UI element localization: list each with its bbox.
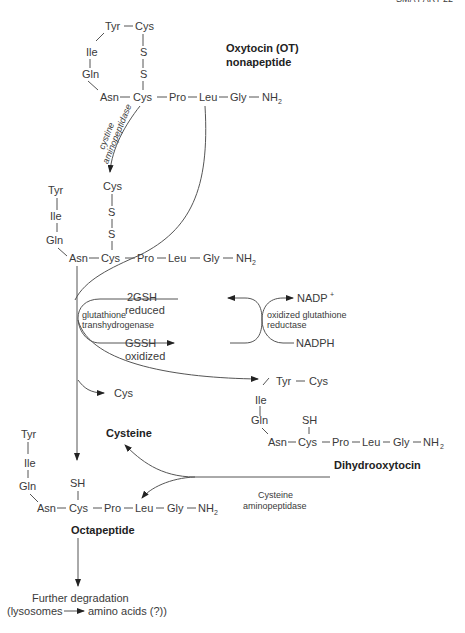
- residue-gln: Gln: [19, 480, 36, 492]
- degradation-lysosomes: (lysosomes: [7, 605, 63, 617]
- glutathione-cycle: 2GSH reduced GSSH oxidized glutathione t…: [78, 291, 347, 393]
- subscript-2: 2: [440, 443, 444, 450]
- residue-gln: Gln: [46, 234, 63, 246]
- sulfur-1: S: [108, 206, 115, 218]
- octapeptide-formation-arrow: [142, 477, 195, 498]
- dihydrooxytocin-title: Dihydrooxytocin: [334, 459, 421, 471]
- thiol-sh: SH: [70, 477, 85, 489]
- glutathione-reduced: 2GSH: [127, 291, 157, 303]
- enzyme-transhydrogenase-1: glutathione: [82, 310, 126, 320]
- nadph: NADPH: [296, 337, 335, 349]
- residue-pro: Pro: [169, 91, 186, 103]
- residue-asn: Asn: [69, 252, 88, 264]
- terminal-nh2: NH: [198, 502, 214, 514]
- oxytocin-title: Oxytocin (OT): [226, 42, 299, 54]
- residue-leu: Leu: [135, 502, 153, 514]
- leu-curve: [75, 106, 206, 300]
- subscript-2: 2: [278, 98, 282, 105]
- enzyme-cystine-aminopeptidase: cystine aminopeptidase: [92, 99, 133, 165]
- residue-pro: Pro: [332, 436, 349, 448]
- residue-leu: Leu: [199, 91, 217, 103]
- residue-asn: Asn: [100, 91, 119, 103]
- residue-leu: Leu: [362, 436, 380, 448]
- residue-gly: Gly: [393, 436, 410, 448]
- residue-tyr: Tyr: [21, 428, 37, 440]
- residue-gly: Gly: [230, 91, 247, 103]
- sulfur-1: S: [140, 46, 147, 58]
- sulfur-2: S: [108, 228, 115, 240]
- terminal-nh2: NH: [236, 252, 252, 264]
- cysteine-release-arrow: [125, 445, 330, 477]
- octapeptide-title: Octapeptide: [71, 524, 135, 536]
- residue-ile: Ile: [86, 46, 98, 58]
- residue-cys: Cys: [298, 436, 317, 448]
- residue-cys: Cys: [103, 180, 122, 192]
- residue-ile: Ile: [24, 457, 36, 469]
- residue-ile: Ile: [50, 210, 62, 222]
- residue-cys: Cys: [135, 20, 154, 32]
- residue-leu: Leu: [168, 252, 186, 264]
- terminal-nh2: NH: [423, 436, 439, 448]
- residue-gly: Gly: [167, 502, 184, 514]
- residue-cys: Cys: [133, 91, 152, 103]
- residue-cys: Cys: [101, 252, 120, 264]
- terminal-nh2: NH: [262, 91, 278, 103]
- residue-pro: Pro: [137, 252, 154, 264]
- thiol-sh: SH: [302, 414, 317, 426]
- residue-ile: Ile: [255, 394, 267, 406]
- intermediate-structure: Cys S S Tyr Ile Gln Asn Cys Pro Leu Gly …: [46, 180, 256, 266]
- nadp-superscript: +: [330, 291, 334, 298]
- subscript-2: 2: [252, 259, 256, 266]
- enzyme-reductase-1: oxidized glutathione: [267, 310, 347, 320]
- oxytocin-subtitle: nonapeptide: [226, 56, 291, 68]
- dihydrooxytocin-structure: Tyr Cys Ile Gln SH Asn Cys Pro Leu Gly N…: [251, 375, 444, 471]
- residue-gly: Gly: [203, 252, 220, 264]
- residue-cys: Cys: [309, 375, 328, 387]
- oxytocin-structure: Tyr Cys Ile S Gln S Asn Cys Pro Leu Gly …: [82, 20, 299, 105]
- glutathione-reduced-label: reduced: [125, 304, 165, 316]
- residue-asn: Asn: [268, 436, 287, 448]
- released-cys: Cys: [114, 387, 133, 399]
- enzyme-transhydrogenase-2: transhydrogenase: [82, 320, 154, 330]
- running-title: SMA PART 22: [396, 0, 453, 4]
- enzyme-cysteine-aminopeptidase-1: Cysteine: [258, 490, 293, 500]
- residue-pro: Pro: [104, 502, 121, 514]
- residue-cys: Cys: [69, 502, 88, 514]
- glutathione-oxidized-label: oxidized: [125, 350, 165, 362]
- enzyme-cysteine-aminopeptidase-2: aminopeptidase: [243, 501, 307, 511]
- subscript-2: 2: [214, 509, 218, 516]
- degradation-line1: Further degradation: [32, 592, 129, 604]
- residue-tyr: Tyr: [48, 184, 64, 196]
- residue-gln: Gln: [251, 414, 268, 426]
- nadp-plus: NADP: [297, 292, 328, 304]
- sulfur-2: S: [140, 68, 147, 80]
- glutathione-oxidized: GSSH: [125, 337, 156, 349]
- cysteine-label: Cysteine: [106, 427, 152, 439]
- residue-tyr: Tyr: [105, 20, 121, 32]
- octapeptide-structure: Tyr Ile Gln SH Asn Cys Pro Leu Gly NH 2 …: [19, 428, 218, 536]
- enzyme-reductase-2: reductase: [267, 320, 307, 330]
- degradation-amino-acids: amino acids (?)): [88, 605, 167, 617]
- residue-gln: Gln: [82, 68, 99, 80]
- residue-tyr: Tyr: [276, 375, 292, 387]
- residue-asn: Asn: [37, 502, 56, 514]
- oxytocin-degradation-diagram: SMA PART 22 Tyr Cys Ile S Gln S Asn Cys …: [0, 0, 465, 633]
